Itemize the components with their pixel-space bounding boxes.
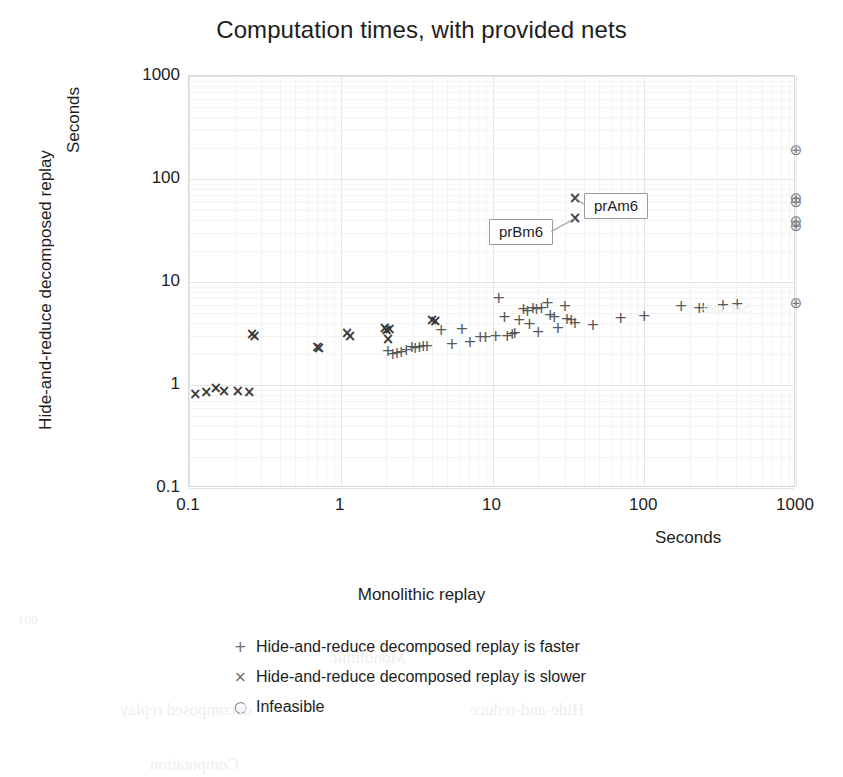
data-point-cross: ×: [218, 383, 231, 398]
data-point-cross: ×: [313, 340, 326, 355]
gridline-vertical: [717, 76, 718, 486]
gridline-vertical: [341, 76, 342, 486]
gridline-horizontal: [189, 408, 794, 409]
gridline-horizontal: [189, 86, 794, 87]
gridline-vertical: [326, 76, 327, 486]
gridline-vertical: [538, 76, 539, 486]
legend-marker-icon: ○: [234, 698, 256, 716]
gridline-vertical: [459, 76, 460, 486]
gridline-horizontal: [189, 401, 794, 402]
gridline-horizontal: [189, 148, 794, 149]
gridline-horizontal: [189, 395, 794, 396]
data-point-cross: ×: [383, 321, 396, 336]
data-point-plus: +: [731, 296, 744, 312]
gridline-horizontal: [189, 488, 794, 489]
x-axis-units-label: Seconds: [655, 528, 721, 548]
data-point-plus: +: [420, 338, 433, 354]
gridline-vertical: [637, 76, 638, 486]
gridline-horizontal: [189, 107, 794, 108]
data-point-plus: +: [492, 290, 505, 306]
data-point-plus: +: [531, 324, 544, 340]
x-axis-ticks: 0.11101001000: [188, 495, 795, 521]
gridline-vertical: [334, 76, 335, 486]
gridline-horizontal: [189, 251, 794, 252]
y-axis-units-label: Seconds: [64, 60, 84, 180]
gridline-vertical: [307, 76, 308, 486]
point-label-pram6: prAm6: [584, 193, 648, 219]
gridline-vertical: [261, 76, 262, 486]
gridline-vertical: [736, 76, 737, 486]
gridline-horizontal: [189, 416, 794, 417]
data-point-plus: +: [445, 336, 458, 352]
bleed-through-text: decomposed replay: [120, 700, 252, 720]
gridline-horizontal: [189, 179, 794, 180]
gridline-horizontal: [189, 184, 794, 185]
data-point-circle: [790, 218, 803, 233]
data-point-cross: ×: [429, 313, 442, 328]
gridline-vertical: [189, 76, 190, 486]
data-point-circle: [790, 143, 803, 158]
y-tick-label: 1000: [120, 65, 180, 85]
gridline-horizontal: [189, 117, 794, 118]
data-point-plus: +: [638, 308, 651, 324]
gridline-horizontal: [189, 99, 794, 100]
gridline-vertical: [584, 76, 585, 486]
legend-item-label: Hide-and-reduce decomposed replay is slo…: [256, 668, 586, 686]
gridline-vertical: [781, 76, 782, 486]
y-axis-title: Hide-and-reduce decomposed replay: [36, 90, 56, 490]
legend-item: ×Hide-and-reduce decomposed replay is sl…: [234, 662, 664, 692]
gridline-vertical: [599, 76, 600, 486]
gridline-vertical: [235, 76, 236, 486]
plot-area: ++++++++++++++++++++++++++++++++++++++++…: [188, 75, 795, 487]
bleed-through-text: 001: [18, 612, 38, 628]
y-tick-label: 100: [120, 168, 180, 188]
data-point-plus: +: [697, 300, 710, 316]
chart-title: Computation times, with provided nets: [0, 16, 843, 44]
bleed-through-text: Computation: [150, 755, 239, 775]
gridline-horizontal: [189, 426, 794, 427]
data-point-plus: +: [674, 298, 687, 314]
gridline-horizontal: [189, 189, 794, 190]
gridline-horizontal: [189, 92, 794, 93]
gridline-vertical: [565, 76, 566, 486]
gridline-vertical: [630, 76, 631, 486]
x-tick-label: 1: [300, 495, 380, 515]
legend-item: ○Infeasible: [234, 692, 664, 722]
legend-item-label: Hide-and-reduce decomposed replay is fas…: [256, 638, 580, 656]
gridline-vertical: [690, 76, 691, 486]
gridline-horizontal: [189, 385, 794, 386]
y-tick-label: 1: [120, 374, 180, 394]
data-point-cross: ×: [243, 384, 256, 399]
gridline-horizontal: [189, 282, 794, 283]
gridline-horizontal: [189, 210, 794, 211]
data-point-circle: [790, 295, 803, 310]
data-point-plus: +: [614, 310, 627, 326]
gridline-horizontal: [189, 81, 794, 82]
gridline-vertical: [478, 76, 479, 486]
gridline-vertical: [469, 76, 470, 486]
gridline-vertical: [796, 76, 797, 486]
gridline-vertical: [280, 76, 281, 486]
gridline-vertical: [295, 76, 296, 486]
gridline-vertical: [772, 76, 773, 486]
gridline-vertical: [762, 76, 763, 486]
gridline-horizontal: [189, 354, 794, 355]
y-tick-label: 0.1: [120, 477, 180, 497]
x-tick-label: 1000: [755, 495, 835, 515]
data-point-cross: ×: [248, 328, 261, 343]
gridline-horizontal: [189, 323, 794, 324]
legend-item-label: Infeasible: [256, 698, 325, 716]
x-axis-title: Monolithic replay: [0, 585, 843, 605]
data-point-plus: +: [716, 297, 729, 313]
chart-legend: +Hide-and-reduce decomposed replay is fa…: [234, 632, 664, 722]
gridline-horizontal: [189, 130, 794, 131]
gridline-vertical: [644, 76, 645, 486]
y-axis-ticks: 0.11101001000: [118, 75, 180, 487]
legend-marker-icon: ×: [234, 668, 256, 686]
y-tick-label: 10: [120, 271, 180, 291]
legend-item: +Hide-and-reduce decomposed replay is fa…: [234, 632, 664, 662]
legend-marker-icon: +: [234, 638, 256, 656]
gridline-vertical: [493, 76, 494, 486]
gridline-vertical: [789, 76, 790, 486]
gridline-vertical: [621, 76, 622, 486]
